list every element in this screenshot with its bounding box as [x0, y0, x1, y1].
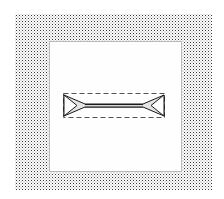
drawing-canvas: [0, 0, 224, 199]
double-headed-arrow-svg: [63, 93, 165, 118]
double-headed-arrow[interactable]: [63, 93, 165, 118]
